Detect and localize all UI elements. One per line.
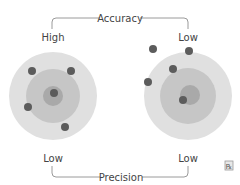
dot <box>67 67 75 75</box>
dot <box>144 78 152 86</box>
accuracy-label: Accuracy <box>97 13 143 24</box>
dot <box>50 89 58 97</box>
dot <box>61 123 69 131</box>
left-top-label-high: High <box>42 32 65 43</box>
left-target <box>9 52 97 140</box>
right-target <box>144 45 232 140</box>
dot <box>179 96 187 104</box>
dot <box>149 45 157 53</box>
rx-icon[interactable]: ℞ <box>225 161 233 171</box>
dot <box>28 67 36 75</box>
left-bottom-label-low: Low <box>43 153 63 164</box>
precision-label: Precision <box>99 172 144 183</box>
dot <box>169 65 177 73</box>
right-bottom-label-low: Low <box>178 153 198 164</box>
dot <box>24 103 32 111</box>
dot <box>185 47 193 55</box>
svg-text:℞: ℞ <box>226 163 232 171</box>
accuracy-precision-diagram: Accuracy High Low Low Low Precision ℞ <box>0 0 240 185</box>
right-top-label-low: Low <box>178 32 198 43</box>
